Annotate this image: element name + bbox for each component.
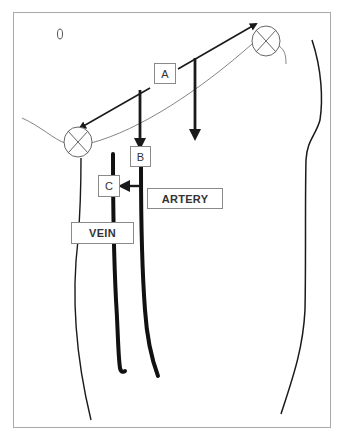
label-box-b: B bbox=[130, 146, 151, 167]
a-arrow-line-right bbox=[178, 24, 256, 69]
circle-x-icon bbox=[252, 26, 280, 56]
vein-label-text: VEIN bbox=[89, 227, 116, 239]
left-body-contour bbox=[75, 158, 91, 420]
shoulder-contour-line bbox=[22, 44, 286, 143]
label-box-c: C bbox=[98, 175, 120, 197]
label-c-text: C bbox=[105, 180, 113, 192]
right-body-contour bbox=[281, 40, 321, 414]
vein-label-box: VEIN bbox=[71, 222, 134, 244]
oval-mark-icon bbox=[58, 29, 63, 39]
label-a-text: A bbox=[161, 68, 168, 80]
circle-x-icon bbox=[64, 127, 92, 157]
artery-label-box: ARTERY bbox=[147, 188, 223, 209]
artery-label-text: ARTERY bbox=[162, 193, 209, 205]
label-b-text: B bbox=[137, 151, 144, 163]
label-box-a: A bbox=[154, 63, 176, 84]
